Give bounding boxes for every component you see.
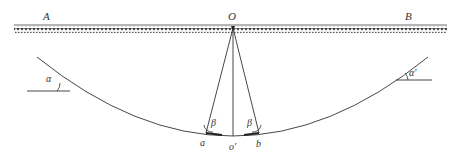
label-a: a bbox=[200, 137, 205, 148]
alpha-left-angle bbox=[27, 83, 70, 91]
label-o: O bbox=[228, 10, 236, 22]
label-beta-left: β bbox=[210, 117, 216, 128]
label-b: b bbox=[256, 138, 261, 149]
label-beta-right: β bbox=[246, 117, 252, 128]
support-beam bbox=[14, 25, 447, 33]
sag-angle-diagram: A B O α α' β β a o' b bbox=[0, 0, 460, 156]
beta-right-arc bbox=[252, 125, 261, 132]
label-alpha-left: α bbox=[46, 73, 52, 84]
ray-o-to-b bbox=[233, 28, 259, 133]
cable-curve bbox=[37, 57, 428, 136]
label-a-upper: A bbox=[42, 10, 50, 22]
label-alpha-right: α' bbox=[409, 67, 417, 78]
label-b-upper: B bbox=[405, 10, 412, 22]
label-o-prime: o' bbox=[229, 141, 237, 152]
